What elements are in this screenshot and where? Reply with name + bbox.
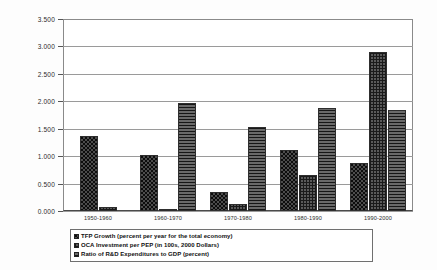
bar bbox=[369, 52, 387, 211]
legend-row-2: Ratio of R&D Expenditures to GDP (percen… bbox=[74, 250, 369, 259]
y-tick-label: 2.500 bbox=[38, 70, 55, 77]
bar bbox=[388, 110, 406, 211]
legend-item-oca-investment: OCA Investment per PEP (in 100s, 2000 Do… bbox=[74, 241, 219, 250]
y-tick-label: 1.000 bbox=[38, 153, 55, 160]
bar bbox=[318, 108, 336, 211]
x-axis: 1950-19601960-19701970-19801980-19901990… bbox=[63, 213, 413, 225]
bar-group bbox=[343, 19, 413, 211]
chart-legend: TFP Growth (percent per year for the tot… bbox=[70, 229, 373, 262]
legend-swatch-icon-tfp-growth bbox=[74, 234, 79, 239]
y-tick-label: 3.000 bbox=[38, 43, 55, 50]
bar bbox=[350, 163, 368, 211]
y-tick-label: 2.000 bbox=[38, 98, 55, 105]
bar bbox=[80, 136, 98, 211]
bar-group bbox=[273, 19, 343, 211]
y-tick-label: 3.500 bbox=[38, 16, 55, 23]
bar-groups bbox=[63, 19, 413, 211]
bar bbox=[99, 207, 117, 211]
y-tick-label: 0.000 bbox=[38, 208, 55, 215]
legend-item-tfp-growth: TFP Growth (percent per year for the tot… bbox=[74, 232, 232, 241]
y-tick-label: 1.500 bbox=[38, 125, 55, 132]
legend-label-rd-ratio: Ratio of R&D Expenditures to GDP (percen… bbox=[81, 250, 209, 259]
legend-item-rd-ratio: Ratio of R&D Expenditures to GDP (percen… bbox=[74, 250, 209, 259]
x-tick-label: 1950-1960 bbox=[63, 213, 133, 225]
bar-group bbox=[63, 19, 133, 211]
legend-row-1: TFP Growth (percent per year for the tot… bbox=[74, 232, 369, 250]
plot-area bbox=[63, 19, 413, 211]
bar bbox=[280, 150, 298, 211]
bar bbox=[248, 127, 266, 211]
legend-label-oca-investment: OCA Investment per PEP (in 100s, 2000 Do… bbox=[81, 241, 219, 250]
bar-group bbox=[133, 19, 203, 211]
x-tick-label: 1990-2000 bbox=[343, 213, 413, 225]
bar bbox=[140, 155, 158, 212]
bar bbox=[178, 103, 196, 211]
bar bbox=[229, 204, 247, 211]
bar bbox=[299, 175, 317, 211]
bar bbox=[159, 209, 177, 211]
y-axis: 3.5003.0002.5002.0001.5001.0000.5000.000 bbox=[0, 19, 63, 211]
bar-group bbox=[203, 19, 273, 211]
gridline bbox=[63, 211, 413, 212]
x-tick-label: 1980-1990 bbox=[273, 213, 343, 225]
legend-swatch-icon-rd-ratio bbox=[74, 252, 79, 257]
x-tick-label: 1970-1980 bbox=[203, 213, 273, 225]
bar-chart: 3.5003.0002.5002.0001.5001.0000.5000.000… bbox=[0, 0, 437, 270]
x-tick-label: 1960-1970 bbox=[133, 213, 203, 225]
bar bbox=[210, 192, 228, 211]
y-tick-label: 0.500 bbox=[38, 180, 55, 187]
legend-swatch-icon-oca-investment bbox=[74, 243, 79, 248]
legend-label-tfp-growth: TFP Growth (percent per year for the tot… bbox=[81, 232, 232, 241]
